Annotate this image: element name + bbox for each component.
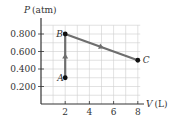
state-label-b: B xyxy=(55,29,63,39)
process-paths xyxy=(62,34,138,78)
x-tick-label: 6 xyxy=(111,107,117,117)
arrow-icon xyxy=(62,53,68,58)
state-point-b xyxy=(63,32,68,37)
state-label-c: C xyxy=(143,55,150,65)
y-tick-label: 0.600 xyxy=(10,47,36,57)
state-point-c xyxy=(135,58,140,63)
x-tick-label: 4 xyxy=(87,107,93,117)
state-points: ABC xyxy=(55,29,150,83)
y-axis-label: P(atm) xyxy=(23,5,57,15)
x-tick-label: 2 xyxy=(62,107,68,117)
pv-diagram: 24680.2000.4000.6000.800 P(atm) V(L) ABC xyxy=(0,0,176,128)
state-label-a: A xyxy=(56,73,64,83)
y-tick-label: 0.400 xyxy=(10,64,36,74)
x-tick-label: 8 xyxy=(135,107,141,117)
y-tick-label: 0.800 xyxy=(10,29,36,39)
y-tick-label: 0.200 xyxy=(10,82,36,92)
x-axis-label: V(L) xyxy=(146,99,168,109)
